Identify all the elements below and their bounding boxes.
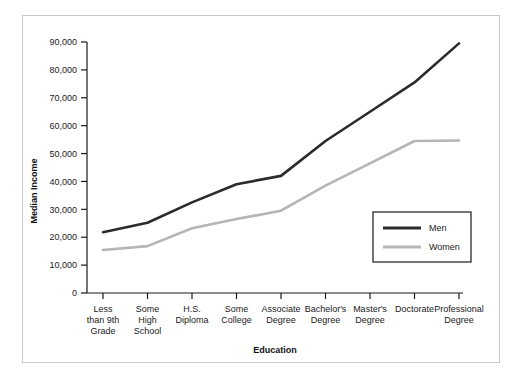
svg-text:College: College <box>221 315 252 325</box>
svg-text:Degree: Degree <box>311 315 341 325</box>
svg-text:Degree: Degree <box>444 315 474 325</box>
x-axis-category-labels: Lessthan 9thGradeSomeHighSchoolH.S.Diplo… <box>87 304 484 336</box>
y-tick-label: 0 <box>72 288 77 298</box>
legend-label-women: Women <box>429 242 460 252</box>
x-tick-label: Lessthan 9thGrade <box>87 304 120 336</box>
y-tick-label: 20,000 <box>49 232 77 242</box>
x-tick-label: SomeCollege <box>221 304 252 325</box>
svg-text:Professional: Professional <box>434 304 484 314</box>
legend-label-men: Men <box>429 223 447 233</box>
y-tick-label: 10,000 <box>49 260 77 270</box>
x-tick-label: Bachelor'sDegree <box>305 304 347 325</box>
y-tick-label: 70,000 <box>49 93 77 103</box>
svg-text:Some: Some <box>136 304 160 314</box>
x-tick-label: Doctorate <box>395 304 434 314</box>
svg-text:Degree: Degree <box>266 315 296 325</box>
y-tick-label: 30,000 <box>49 205 77 215</box>
legend-box <box>373 212 471 262</box>
x-tick-label: ProfessionalDegree <box>434 304 484 325</box>
svg-text:Bachelor's: Bachelor's <box>305 304 347 314</box>
svg-text:Less: Less <box>93 304 113 314</box>
svg-text:Doctorate: Doctorate <box>395 304 434 314</box>
svg-text:Degree: Degree <box>355 315 385 325</box>
y-tick-label: 90,000 <box>49 37 77 47</box>
x-tick-label: H.S.Diploma <box>175 304 208 325</box>
y-tick-label: 60,000 <box>49 121 77 131</box>
y-axis-title: Median Income <box>29 158 39 223</box>
svg-text:Master's: Master's <box>353 304 387 314</box>
svg-text:Associate: Associate <box>261 304 300 314</box>
svg-text:H.S.: H.S. <box>183 304 201 314</box>
svg-text:Diploma: Diploma <box>175 315 208 325</box>
x-tick-label: SomeHighSchool <box>134 304 162 336</box>
x-axis-ticks <box>103 293 459 299</box>
x-tick-label: AssociateDegree <box>261 304 300 325</box>
chart-legend: Men Women <box>373 212 471 262</box>
svg-text:Grade: Grade <box>90 326 115 336</box>
y-tick-label: 50,000 <box>49 149 77 159</box>
svg-text:than 9th: than 9th <box>87 315 120 325</box>
y-tick-label: 80,000 <box>49 65 77 75</box>
x-tick-label: Master'sDegree <box>353 304 387 325</box>
y-tick-label: 40,000 <box>49 177 77 187</box>
line-chart: 010,00020,00030,00040,00050,00060,00070,… <box>23 16 499 362</box>
series-line-men <box>103 43 459 232</box>
svg-text:Some: Some <box>225 304 249 314</box>
y-axis-ticks: 010,00020,00030,00040,00050,00060,00070,… <box>49 37 87 298</box>
x-axis-title: Education <box>253 345 297 355</box>
svg-text:School: School <box>134 326 162 336</box>
chart-frame: 010,00020,00030,00040,00050,00060,00070,… <box>22 15 500 363</box>
svg-text:High: High <box>138 315 157 325</box>
